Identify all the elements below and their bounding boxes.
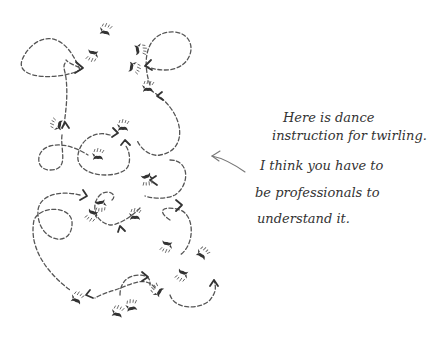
paw-icon bbox=[124, 298, 138, 312]
paw-icon bbox=[85, 49, 99, 63]
caption-line-5: understand it. bbox=[257, 210, 350, 227]
caption-line-1: Here is dance bbox=[283, 109, 374, 126]
pointer-arrow-icon bbox=[212, 151, 245, 172]
paw-icon bbox=[195, 244, 211, 260]
paw-icon bbox=[174, 268, 189, 283]
arrowheads bbox=[62, 60, 218, 298]
paw-icon bbox=[129, 208, 141, 220]
arrow-icon bbox=[112, 128, 118, 137]
arrow-icon bbox=[80, 190, 87, 200]
paw-icon bbox=[142, 80, 154, 92]
paw-icon bbox=[148, 282, 164, 298]
caption-line-4: be professionals to bbox=[255, 184, 379, 201]
arrow-icon bbox=[210, 280, 218, 286]
paw-icon bbox=[140, 172, 155, 187]
paw-icon bbox=[111, 304, 125, 318]
caption-line-3: I think you have to bbox=[260, 157, 383, 174]
dance-paths bbox=[21, 32, 215, 307]
arrow-icon bbox=[121, 140, 130, 145]
arrow-icon bbox=[142, 272, 148, 281]
paw-icon bbox=[70, 290, 85, 305]
caption-line-2: instruction for twirling. bbox=[272, 127, 427, 144]
arrow-icon bbox=[118, 226, 125, 232]
arrow-icon bbox=[86, 290, 93, 298]
paw-icon bbox=[99, 22, 113, 36]
arrow-icon bbox=[157, 92, 163, 100]
paw-icon bbox=[159, 240, 173, 254]
paw-icon bbox=[128, 61, 142, 75]
paw-icon bbox=[49, 117, 63, 131]
paw-icon bbox=[92, 148, 104, 160]
arrow-icon bbox=[62, 122, 69, 128]
paw-icon bbox=[117, 119, 129, 131]
paw-icon bbox=[134, 42, 148, 56]
footprints bbox=[49, 22, 211, 318]
